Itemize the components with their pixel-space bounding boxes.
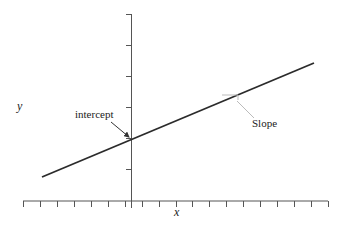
intercept-label: intercept — [75, 108, 113, 120]
y-axis-ticks — [126, 15, 132, 170]
linear-graph-diagram: y x intercept Slope — [0, 0, 341, 227]
slope-indicator — [222, 95, 254, 118]
slope-leader-line — [237, 101, 254, 118]
y-axis-label: y — [16, 99, 23, 113]
intercept-arrow-icon — [111, 122, 129, 137]
x-axis-label: x — [173, 205, 180, 219]
slope-label: Slope — [252, 117, 277, 129]
